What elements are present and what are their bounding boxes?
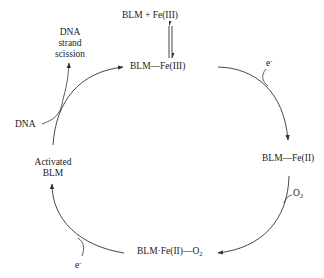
node-blm-fe2-o2-main: BLM·Fe(II)—O (137, 246, 199, 256)
node-blm-fe3: BLM—Fe(III) (130, 61, 185, 72)
node-blm-fe2-o2-sub: 2 (199, 250, 202, 257)
arc-fe2-to-fe2o2 (218, 176, 289, 253)
node-blm-fe2: BLM—Fe(II) (262, 153, 314, 164)
node-blm-fe2-o2: BLM·Fe(II)—O2 (137, 246, 203, 257)
dna-scission-line1: DNA (50, 27, 90, 38)
label-electron-bottom: e- (75, 260, 81, 271)
dna-input-path (42, 63, 69, 124)
electron-bottom-sup: - (79, 259, 81, 266)
label-electron-top: e- (266, 58, 272, 69)
electron-input-bottom (78, 238, 84, 256)
equilibrium-arrows (169, 26, 172, 58)
label-dna-input: DNA (15, 119, 36, 130)
arc-fe3-to-fe2 (218, 67, 288, 140)
activated-blm-line1: Activated (24, 157, 82, 168)
arc-activated-to-fe3 (53, 67, 123, 145)
activated-blm-line2: BLM (24, 168, 82, 179)
label-oxygen: O2 (293, 188, 303, 199)
dna-scission-line3: scission (50, 49, 90, 60)
cycle-arrows (0, 0, 324, 278)
label-dna-strand-scission: DNA strand scission (50, 27, 90, 60)
oxygen-o: O (293, 188, 300, 198)
node-blm-fe3-free: BLM + Fe(III) (122, 10, 178, 21)
arc-fe2o2-to-activated (52, 184, 124, 253)
oxygen-sub: 2 (300, 192, 303, 199)
node-activated-blm: Activated BLM (24, 157, 82, 179)
dna-scission-line2: strand (50, 38, 90, 49)
electron-top-sup: - (270, 57, 272, 64)
